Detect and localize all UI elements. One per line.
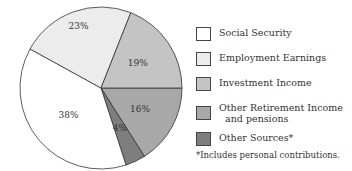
legend-swatch (196, 27, 211, 41)
slice-label: 4% (113, 123, 128, 133)
slice-label: 23% (68, 21, 88, 31)
legend-item-social-security: Social Security (196, 27, 292, 41)
legend-swatch (196, 132, 211, 146)
legend-label: Other Retirement Income and pensions (219, 102, 343, 124)
legend-label: Employment Earnings (219, 52, 326, 63)
legend-swatch (196, 52, 211, 66)
slice-label: 19% (128, 58, 148, 68)
legend-item-employment-earnings: Employment Earnings (196, 52, 326, 66)
legend-label: Investment Income (219, 77, 312, 88)
legend-item-investment-income: Investment Income (196, 77, 312, 91)
legend-item-other-sources: Other Sources* (196, 132, 293, 146)
slice-label: 38% (59, 110, 79, 120)
slice-label: 16% (130, 104, 150, 114)
legend-label: Other Sources* (219, 132, 293, 143)
pie-chart: 16%4%38%23%19% (0, 0, 190, 171)
legend-item-other-retirement-income: Other Retirement Income and pensions (196, 102, 343, 124)
footnote: *Includes personal contributions. (196, 150, 340, 160)
legend-swatch (196, 77, 211, 91)
legend-swatch (196, 106, 211, 120)
legend-label: Social Security (219, 27, 292, 38)
